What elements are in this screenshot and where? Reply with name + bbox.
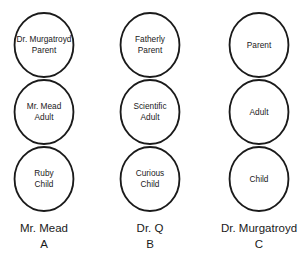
child-circle: Ruby Child [14, 146, 75, 212]
circle-label: Child [250, 174, 269, 185]
circle-label: Curious [136, 168, 165, 179]
circle-label: Ruby [34, 168, 53, 179]
circle-label: Adult [141, 112, 160, 123]
diagram-letter: C [209, 237, 303, 251]
circle-label: Fatherly [135, 34, 165, 45]
circle-label: Scientific [133, 101, 166, 112]
circle-label: Adult [250, 107, 269, 118]
diagram-b: Fatherly Parent Scientific Adult Curious… [100, 0, 200, 262]
diagram-name: Dr. Q [100, 221, 200, 235]
circle-label: Dr. Murgatroyd [17, 34, 72, 45]
diagram-c: Parent Adult Child Dr. Murgatroyd C [209, 0, 303, 262]
diagram-name: Mr. Mead [0, 221, 94, 235]
circle-label: Parent [247, 40, 271, 51]
circle-label: Mr. Mead [27, 101, 62, 112]
circle-label: Child [141, 179, 160, 190]
parent-circle: Fatherly Parent [120, 12, 181, 78]
circle-label: Parent [32, 45, 56, 56]
child-circle: Child [229, 146, 290, 212]
diagram-letter: A [0, 237, 94, 251]
child-circle: Curious Child [120, 146, 181, 212]
circle-label: Child [35, 179, 54, 190]
circle-label: Adult [35, 112, 54, 123]
circle-label: Parent [138, 45, 162, 56]
parent-circle: Parent [229, 12, 290, 78]
diagram-name: Dr. Murgatroyd [209, 221, 303, 235]
adult-circle: Scientific Adult [120, 79, 181, 145]
adult-circle: Mr. Mead Adult [14, 79, 75, 145]
adult-circle: Adult [229, 79, 290, 145]
parent-circle: Dr. Murgatroyd Parent [14, 12, 75, 78]
diagram-a: Dr. Murgatroyd Parent Mr. Mead Adult Rub… [0, 0, 94, 262]
diagram-letter: B [100, 237, 200, 251]
